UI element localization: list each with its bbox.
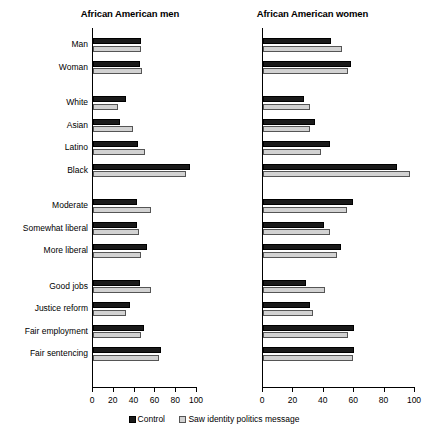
bar-control <box>263 325 354 331</box>
x-tick-label: 100 <box>402 395 426 405</box>
bar-treatment <box>263 149 321 155</box>
x-tick <box>175 388 176 392</box>
x-tick-label: 20 <box>280 395 304 405</box>
category-label: Moderate <box>52 200 88 210</box>
bar-treatment <box>93 332 141 338</box>
bar-control <box>93 302 130 308</box>
x-tick <box>292 388 293 392</box>
bar-control <box>263 347 354 353</box>
category-label: Asian <box>67 120 88 130</box>
bar-control <box>93 244 147 250</box>
bar-control <box>263 38 331 44</box>
category-label: Fair sentencing <box>30 348 88 358</box>
bar-treatment <box>93 126 133 132</box>
bar-control <box>93 38 141 44</box>
bar-treatment <box>263 252 337 258</box>
bar-control <box>263 119 315 125</box>
legend-label-control: Control <box>138 414 165 424</box>
bar-control <box>263 141 330 147</box>
x-axis-line-women <box>262 387 415 388</box>
bar-treatment <box>263 126 310 132</box>
bar-treatment <box>93 68 142 74</box>
x-tick <box>323 388 324 392</box>
bar-control <box>263 61 351 67</box>
panel-title-women: African American women <box>215 8 410 19</box>
bar-control <box>263 302 310 308</box>
bar-control <box>93 119 120 125</box>
bar-control <box>263 280 306 286</box>
plot-area-men: 020406080100 <box>92 28 197 388</box>
category-label: Black <box>67 165 88 175</box>
bar-treatment <box>93 310 126 316</box>
category-label: White <box>66 97 88 107</box>
category-label: Man <box>71 39 88 49</box>
bar-treatment <box>263 171 410 177</box>
panel-title-men: African American men <box>40 8 220 19</box>
x-tick <box>134 388 135 392</box>
bar-treatment <box>263 104 310 110</box>
bar-control <box>93 141 138 147</box>
category-label: Somewhat liberal <box>23 223 88 233</box>
x-tick <box>414 388 415 392</box>
bar-treatment <box>263 68 348 74</box>
x-tick <box>154 388 155 392</box>
bar-control <box>93 96 126 102</box>
bar-treatment <box>263 332 348 338</box>
bar-control <box>263 222 324 228</box>
bar-treatment <box>93 287 151 293</box>
bar-treatment <box>93 207 151 213</box>
legend-label-treatment: Saw identity politics message <box>188 414 299 424</box>
bar-control <box>93 164 190 170</box>
category-label: Good jobs <box>49 281 88 291</box>
x-tick <box>196 388 197 392</box>
bar-control <box>263 96 304 102</box>
bar-treatment <box>263 310 313 316</box>
bar-control <box>93 199 137 205</box>
x-tick-label: 60 <box>341 395 365 405</box>
legend-swatch-control <box>129 416 136 423</box>
legend-item-control: Control <box>129 414 165 424</box>
plot-area-women: 020406080100 <box>262 28 415 388</box>
x-tick <box>384 388 385 392</box>
x-tick <box>92 388 93 392</box>
x-tick <box>353 388 354 392</box>
bar-treatment <box>93 171 186 177</box>
bar-treatment <box>263 46 342 52</box>
legend-item-treatment: Saw identity politics message <box>179 414 299 424</box>
bar-treatment <box>93 149 145 155</box>
bar-treatment <box>93 355 159 361</box>
bar-control <box>93 61 140 67</box>
bar-treatment <box>93 104 118 110</box>
bar-treatment <box>93 252 141 258</box>
bar-control <box>93 347 161 353</box>
x-tick <box>113 388 114 392</box>
bar-control <box>263 244 341 250</box>
bar-treatment <box>263 207 347 213</box>
x-tick <box>262 388 263 392</box>
bar-control <box>93 280 140 286</box>
legend-swatch-treatment <box>179 416 186 423</box>
bar-control <box>263 164 397 170</box>
x-tick-label: 100 <box>184 395 208 405</box>
bar-treatment <box>93 46 141 52</box>
category-label: Fair employment <box>25 326 88 336</box>
x-tick-label: 0 <box>250 395 274 405</box>
x-axis-line-men <box>92 387 197 388</box>
category-label: Latino <box>65 142 88 152</box>
category-label: Woman <box>59 62 88 72</box>
bar-treatment <box>263 355 353 361</box>
bar-treatment <box>263 287 325 293</box>
x-tick-label: 40 <box>311 395 335 405</box>
category-label: Justice reform <box>35 303 88 313</box>
category-label: More liberal <box>44 245 88 255</box>
x-tick-label: 80 <box>372 395 396 405</box>
bar-treatment <box>93 229 139 235</box>
chart-legend: Control Saw identity politics message <box>0 414 428 424</box>
bar-control <box>263 199 353 205</box>
bar-control <box>93 325 144 331</box>
grouped-bar-chart-figure: African American men African American wo… <box>0 0 428 442</box>
bar-treatment <box>263 229 330 235</box>
bar-control <box>93 222 137 228</box>
